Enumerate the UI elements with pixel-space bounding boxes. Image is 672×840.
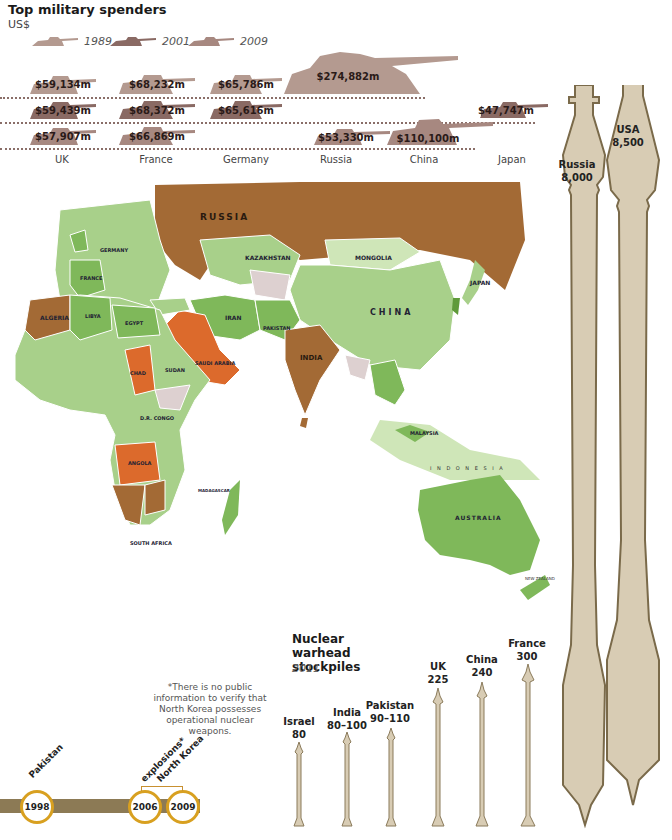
missile-label-usa: USA8,500 <box>603 123 653 149</box>
missile-china-icon <box>474 682 490 828</box>
tank-russia-row3: $53,330m <box>312 127 392 147</box>
north-korea-footnote: *There is no public information to verif… <box>150 682 270 737</box>
svg-text:I N D O N E S I A: I N D O N E S I A <box>430 465 505 471</box>
svg-text:ALGERIA: ALGERIA <box>40 314 69 321</box>
svg-text:INDIA: INDIA <box>300 354 323 362</box>
svg-text:MONGOLIA: MONGOLIA <box>355 254 392 261</box>
tank-uk-row1: $59,134m <box>28 72 98 96</box>
tank-germany-row2: $65,616m <box>208 99 284 121</box>
missile-label-pakistan: Pakistan90–110 <box>360 699 420 725</box>
svg-text:CHINA: CHINA <box>370 308 413 317</box>
timeline-event-1998: 1998 <box>20 790 54 824</box>
tank-uk-row3: $57,907m <box>28 125 98 147</box>
row-divider <box>0 148 475 150</box>
tank-germany-row1: $65,786m <box>208 72 284 96</box>
svg-text:JAPAN: JAPAN <box>469 279 490 287</box>
missile-label-russia: Russia8,000 <box>552 158 602 184</box>
svg-text:PAKISTAN: PAKISTAN <box>263 325 291 331</box>
svg-text:AUSTRALIA: AUSTRALIA <box>455 514 502 521</box>
country-label-germany: Germany <box>206 154 286 165</box>
tank-france-row3: $66,869m <box>117 125 197 147</box>
svg-text:ANGOLA: ANGOLA <box>128 460 152 466</box>
svg-text:IRAN: IRAN <box>225 314 242 321</box>
svg-text:LIBYA: LIBYA <box>85 313 101 319</box>
svg-text:KAZAKHSTAN: KAZAKHSTAN <box>245 254 291 261</box>
tank-russia-row1: $274,882m <box>280 44 460 96</box>
tank-china-row3: $110,100m <box>385 116 495 147</box>
world-map: RUSSIA KAZAKHSTAN MONGOLIA CHINA JAPAN I… <box>0 180 560 620</box>
country-label-china: China <box>384 154 464 165</box>
svg-text:FRANCE: FRANCE <box>80 275 103 281</box>
svg-text:MADAGASCAR: MADAGASCAR <box>198 488 230 493</box>
timeline-event-2006: 2006 <box>128 790 162 824</box>
missile-france-icon <box>519 664 537 828</box>
legend-item-2009: 2009 <box>186 34 268 48</box>
missile-israel-icon <box>292 742 306 828</box>
svg-text:SAUDI ARABIA: SAUDI ARABIA <box>195 360 235 366</box>
timeline-bracket <box>141 786 183 791</box>
tank-icon <box>186 34 236 48</box>
legend-item-1989: 1989 <box>30 34 112 48</box>
timeline-event-2009: 2009 <box>166 790 200 824</box>
missile-uk-icon <box>430 688 446 828</box>
svg-text:D.R. CONGO: D.R. CONGO <box>140 415 174 421</box>
country-label-japan: Japan <box>472 154 552 165</box>
missile-russia-usa-icon <box>545 85 672 840</box>
tank-france-row1: $68,232m <box>117 72 197 96</box>
missile-pakistan-icon <box>384 728 398 828</box>
timeline-label-pakistan: Pakistan <box>27 742 65 780</box>
tank-icon <box>108 34 158 48</box>
country-label-russia: Russia <box>296 154 376 165</box>
svg-text:MALAYSIA: MALAYSIA <box>410 430 439 436</box>
svg-text:GERMANY: GERMANY <box>100 247 128 253</box>
tank-icon <box>30 34 80 48</box>
tank-uk-row2: $59,439m <box>28 99 98 121</box>
nuclear-year: 2011 <box>292 662 320 675</box>
legend-item-2001: 2001 <box>108 34 190 48</box>
svg-text:RUSSIA: RUSSIA <box>200 212 249 222</box>
svg-text:CHAD: CHAD <box>130 370 146 376</box>
svg-text:SUDAN: SUDAN <box>165 367 185 373</box>
chart-subtitle: US$ <box>8 18 30 31</box>
svg-text:SOUTH AFRICA: SOUTH AFRICA <box>130 540 172 546</box>
svg-text:EGYPT: EGYPT <box>125 320 144 326</box>
missile-india-icon <box>340 732 354 828</box>
country-label-france: France <box>116 154 196 165</box>
chart-title: Top military spenders <box>8 2 167 17</box>
tank-france-row2: $68,372m <box>117 99 197 121</box>
country-label-uk: UK <box>22 154 102 165</box>
